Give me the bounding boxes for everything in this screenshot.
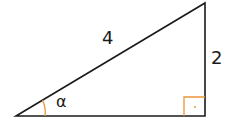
opposite-side-label: 2 <box>211 49 222 67</box>
angle-arc-alpha <box>43 100 46 116</box>
hypotenuse-label: 4 <box>102 29 113 47</box>
angle-alpha-label: α <box>56 94 67 110</box>
right-angle-dot <box>194 106 196 108</box>
triangle-diagram <box>0 0 229 125</box>
triangle-outline <box>16 3 205 116</box>
